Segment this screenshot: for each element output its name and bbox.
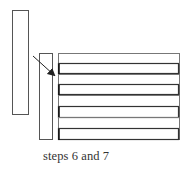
- diagram-canvas: [0, 0, 189, 171]
- stacked-strips: [59, 54, 180, 141]
- arrow-icon: [33, 56, 54, 75]
- tall-strip: [13, 11, 29, 115]
- strip-8: [59, 129, 179, 140]
- strip-4: [59, 85, 179, 95]
- strip-2: [59, 64, 179, 74]
- strip-5: [59, 96, 180, 107]
- caption: steps 6 and 7: [43, 149, 109, 164]
- strip-3: [59, 75, 180, 85]
- stack-outline: [59, 54, 180, 140]
- strip-6: [59, 107, 179, 118]
- strip-7: [59, 118, 180, 129]
- middle-strip: [40, 54, 53, 140]
- strip-1: [59, 54, 180, 64]
